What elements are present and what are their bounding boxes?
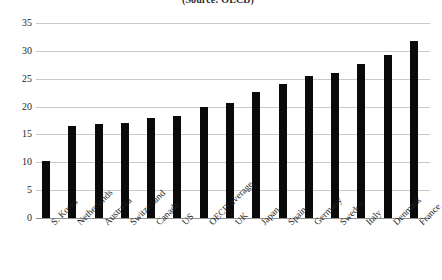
bar xyxy=(384,55,392,218)
bar xyxy=(357,64,365,218)
y-axis: 35302520151050 xyxy=(0,23,32,218)
plot-area xyxy=(36,23,430,218)
bar xyxy=(42,161,50,218)
bar xyxy=(410,41,418,218)
y-tick-label: 15 xyxy=(2,129,32,139)
y-tick-label: 25 xyxy=(2,74,32,84)
bar xyxy=(200,107,208,218)
chart-source-title: (Source: OECD) xyxy=(0,0,436,5)
y-tick-label: 5 xyxy=(2,185,32,195)
y-tick-label: 0 xyxy=(2,213,32,223)
y-tick-label: 10 xyxy=(2,157,32,167)
bar xyxy=(252,92,260,218)
bar xyxy=(305,76,313,218)
y-tick-label: 35 xyxy=(2,18,32,28)
y-tick-label: 20 xyxy=(2,102,32,112)
gridline-25 xyxy=(36,79,430,80)
bar xyxy=(279,84,287,218)
gridline-35 xyxy=(36,23,430,24)
y-tick-label: 30 xyxy=(2,46,32,56)
gridline-30 xyxy=(36,51,430,52)
x-axis: S. KoreaNetherlandsAustraliaSwitzerlandC… xyxy=(36,220,436,280)
